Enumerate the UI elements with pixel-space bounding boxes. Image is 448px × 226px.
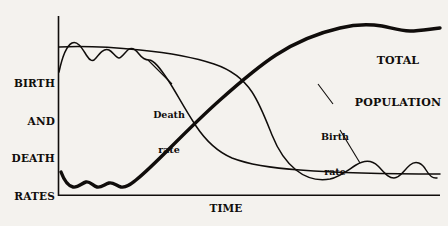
death-rate-label-line-2: rate xyxy=(146,144,192,156)
total-population-label: TOTAL POPULATION xyxy=(352,26,444,138)
death-rate-label: Death rate xyxy=(146,86,192,178)
y-axis-title: BIRTH AND DEATH RATES xyxy=(0,52,55,226)
birth-rate-label-line-1: Birth xyxy=(314,131,356,143)
total-population-label-line-1: TOTAL xyxy=(352,54,444,68)
birth-rate-label-line-2: rate xyxy=(314,166,356,178)
death-rate-label-line-1: Death xyxy=(146,109,192,121)
y-axis-title-line-4: RATES xyxy=(0,190,55,203)
y-axis-title-line-1: BIRTH xyxy=(0,77,55,90)
y-axis-title-line-2: AND xyxy=(0,115,55,128)
y-axis-title-line-3: DEATH xyxy=(0,152,55,165)
death-rate-leader-line xyxy=(148,60,172,84)
demographic-transition-figure: BIRTH AND DEATH RATES TIME TOTAL POPULAT… xyxy=(0,0,448,226)
total-population-label-line-2: POPULATION xyxy=(352,96,444,110)
x-axis-title: TIME xyxy=(186,202,266,215)
birth-rate-label: Birth rate xyxy=(314,108,356,200)
birth-rate-leader-line-upper xyxy=(318,84,333,104)
